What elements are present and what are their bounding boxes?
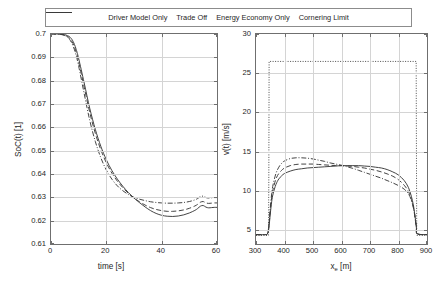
soc-panel: 0.610.620.630.640.650.660.670.680.690.7 …: [0, 0, 222, 294]
x-tick-label: 60: [212, 246, 220, 255]
series-dashed: [51, 34, 217, 211]
axis-tick-x: [342, 241, 343, 244]
velocity-y-axis-title: v(t) [m/s]: [222, 123, 231, 155]
gridline-vertical: [106, 34, 107, 244]
x-tick-label: 0: [48, 246, 52, 255]
y-tick-label: 0.67: [0, 99, 46, 108]
axis-tick-y: [214, 197, 217, 198]
axis-tick-y: [214, 104, 217, 105]
soc-y-axis-title: SoC(t) [1]: [14, 121, 23, 156]
gridline-horizontal: [51, 151, 217, 152]
series-solid: [51, 34, 217, 216]
axis-tick-x: [370, 34, 371, 37]
gridline-horizontal: [256, 230, 427, 231]
axis-tick-y: [214, 57, 217, 58]
axis-tick-x: [399, 241, 400, 244]
axis-tick-y: [424, 34, 427, 35]
gridline-horizontal: [51, 127, 217, 128]
y-tick-label: 0.63: [0, 192, 46, 201]
y-tick-label: 0.69: [0, 52, 46, 61]
y-tick-label: 5: [222, 224, 251, 233]
gridline-horizontal: [256, 152, 427, 153]
y-tick-label: 0.66: [0, 122, 46, 131]
gridline-vertical: [342, 34, 343, 244]
x-tick-label: 700: [363, 246, 376, 255]
axis-tick-y: [51, 57, 54, 58]
soc-plot-area: [50, 33, 218, 245]
axis-tick-x: [313, 241, 314, 244]
axis-tick-y: [424, 152, 427, 153]
gridline-horizontal: [51, 81, 217, 82]
figure-root: Driver Model Only Trade Off Energy Econo…: [0, 0, 445, 294]
axis-tick-y: [256, 34, 259, 35]
x-tick-label: 300: [249, 246, 262, 255]
gridline-horizontal: [256, 191, 427, 192]
x-tick-label: 800: [391, 246, 404, 255]
soc-curves: [51, 34, 217, 244]
axis-tick-y: [256, 230, 259, 231]
axis-tick-y: [424, 230, 427, 231]
axis-tick-y: [214, 127, 217, 128]
gridline-horizontal: [256, 73, 427, 74]
axis-tick-y: [256, 73, 259, 74]
y-tick-label: 0.65: [0, 145, 46, 154]
axis-tick-x: [399, 34, 400, 37]
gridline-vertical: [399, 34, 400, 244]
axis-tick-y: [256, 112, 259, 113]
gridline-horizontal: [51, 57, 217, 58]
axis-tick-x: [106, 34, 107, 37]
gridline-vertical: [313, 34, 314, 244]
velocity-panel: 51015202530 300400500600700800900 xe [m]…: [222, 0, 445, 294]
axis-tick-y: [51, 151, 54, 152]
axis-tick-y: [424, 112, 427, 113]
axis-tick-y: [214, 243, 217, 244]
axis-tick-x: [162, 34, 163, 37]
axis-tick-x: [426, 241, 427, 244]
y-tick-label: 10: [222, 185, 251, 194]
gridline-horizontal: [256, 112, 427, 113]
axis-tick-y: [214, 221, 217, 222]
axis-tick-x: [313, 34, 314, 37]
axis-tick-y: [51, 221, 54, 222]
y-tick-label: 30: [222, 29, 251, 38]
velocity-x-axis-title: xe [m]: [331, 262, 352, 272]
gridline-horizontal: [51, 104, 217, 105]
axis-tick-y: [51, 174, 54, 175]
gridline-vertical: [370, 34, 371, 244]
axis-tick-y: [51, 197, 54, 198]
gridline-horizontal: [51, 174, 217, 175]
x-tick-label: 20: [101, 246, 109, 255]
axis-tick-y: [51, 104, 54, 105]
axis-tick-y: [256, 152, 259, 153]
axis-tick-y: [214, 34, 217, 35]
axis-tick-y: [51, 34, 54, 35]
gridline-vertical: [285, 34, 286, 244]
axis-tick-x: [162, 241, 163, 244]
axis-tick-y: [256, 191, 259, 192]
y-tick-label: 20: [222, 107, 251, 116]
axis-tick-x: [285, 34, 286, 37]
axis-tick-y: [424, 73, 427, 74]
x-tick-label: 500: [306, 246, 319, 255]
velocity-plot-area: [255, 33, 428, 245]
gridline-vertical: [162, 34, 163, 244]
y-tick-label: 0.7: [0, 29, 46, 38]
axis-tick-y: [214, 151, 217, 152]
axis-tick-x: [342, 34, 343, 37]
axis-tick-y: [214, 81, 217, 82]
soc-x-axis-title: time [s]: [98, 262, 124, 271]
axis-tick-x: [256, 241, 257, 244]
y-tick-label: 0.61: [0, 239, 46, 248]
axis-tick-x: [285, 241, 286, 244]
y-tick-label: 25: [222, 68, 251, 77]
axis-tick-x: [370, 241, 371, 244]
axis-tick-y: [51, 81, 54, 82]
y-tick-label: 0.64: [0, 169, 46, 178]
axis-tick-y: [51, 127, 54, 128]
y-tick-label: 0.62: [0, 215, 46, 224]
x-tick-label: 400: [277, 246, 290, 255]
series-dashdot: [51, 34, 217, 203]
gridline-horizontal: [51, 197, 217, 198]
x-tick-label: 900: [420, 246, 433, 255]
axis-tick-y: [424, 191, 427, 192]
